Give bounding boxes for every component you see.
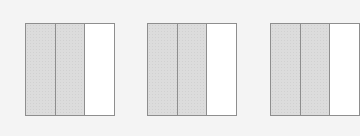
unshaded-part <box>206 24 236 115</box>
fraction-rectangle-2 <box>147 23 237 116</box>
fraction-rectangle-3 <box>270 23 360 116</box>
unshaded-part <box>84 24 114 115</box>
fraction-rectangle-1 <box>25 23 115 116</box>
unshaded-part <box>329 24 359 115</box>
shaded-part <box>271 24 300 115</box>
shaded-part <box>300 24 330 115</box>
shaded-part <box>148 24 177 115</box>
shaded-part <box>177 24 207 115</box>
shaded-part <box>55 24 85 115</box>
shaded-part <box>26 24 55 115</box>
